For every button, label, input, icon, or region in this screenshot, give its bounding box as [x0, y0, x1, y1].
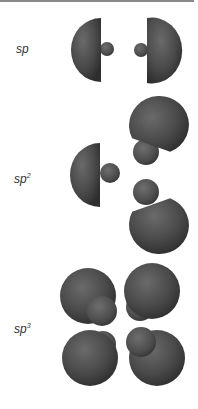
sp3-orbital-bottom-right [126, 327, 185, 386]
sp-orbital-left [71, 18, 114, 82]
sp2-orbital-lower-right [124, 179, 193, 259]
sp3-orbital-top-left [60, 268, 117, 326]
sp-orbital-right [134, 18, 182, 84]
sp2-orbital-upper-right [124, 91, 193, 165]
sp2-orbital-left [70, 143, 120, 207]
sp3-orbital-top-right [124, 263, 180, 321]
sp3-orbital-bottom-left [62, 330, 118, 386]
orbital-diagram [0, 0, 198, 409]
